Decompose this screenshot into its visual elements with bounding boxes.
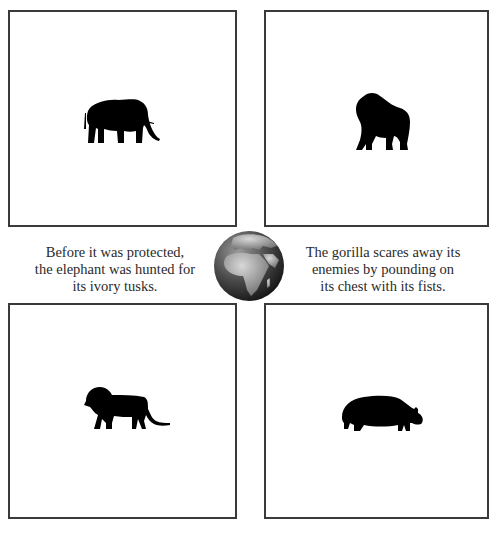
gorilla-card[interactable]: [264, 10, 489, 227]
elephant-icon: [82, 95, 162, 151]
caption-line: the elephant was hunted for: [10, 261, 220, 278]
elephant-card[interactable]: [8, 10, 237, 227]
caption-line: The gorilla scares away its: [278, 244, 488, 261]
gorilla-caption: The gorilla scares away its enemies by p…: [278, 244, 488, 295]
caption-line: enemies by pounding on: [278, 261, 488, 278]
lion-card[interactable]: [8, 303, 237, 519]
caption-line: its ivory tusks.: [10, 278, 220, 295]
hippo-card[interactable]: [264, 303, 489, 519]
gorilla-icon: [350, 92, 414, 154]
caption-line: its chest with its fists.: [278, 278, 488, 295]
lion-icon: [82, 385, 174, 435]
globe-africa-icon: [213, 230, 285, 302]
caption-line: Before it was protected,: [10, 244, 220, 261]
elephant-caption: Before it was protected, the elephant wa…: [10, 244, 220, 295]
hippo-icon: [340, 393, 424, 435]
